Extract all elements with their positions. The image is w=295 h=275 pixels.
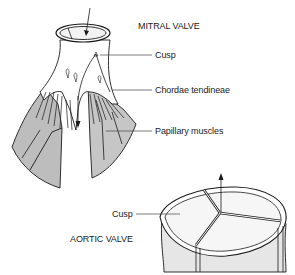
aortic-valve-illustration bbox=[136, 173, 286, 272]
mitral-cusp-label: Cusp bbox=[155, 50, 176, 60]
diagram-illustration bbox=[0, 0, 295, 275]
papillary-muscles-label: Papillary muscles bbox=[155, 126, 223, 136]
chordae-tendineae-label: Chordae tendineae bbox=[155, 85, 230, 95]
mitral-valve-illustration bbox=[12, 8, 152, 188]
valve-diagram: MITRAL VALVE Cusp Chordae tendineae Papi… bbox=[0, 0, 295, 275]
aortic-valve-title: AORTIC VALVE bbox=[70, 234, 133, 244]
mitral-valve-title: MITRAL VALVE bbox=[138, 21, 200, 31]
aortic-cusp-label: Cusp bbox=[112, 209, 133, 219]
